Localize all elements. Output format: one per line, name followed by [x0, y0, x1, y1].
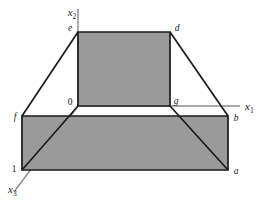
solid-diagram: x2 x1 x3 e d 0 g f b 1 a — [0, 0, 270, 201]
vertex-label-g: g — [174, 96, 179, 106]
vertex-label-b: b — [234, 113, 239, 123]
vertex-label-f: f — [14, 112, 18, 122]
x1-axis-label: x1 — [244, 100, 254, 115]
vertex-label-e: e — [68, 23, 72, 33]
vertex-label-one: 1 — [12, 164, 17, 174]
vertex-label-d: d — [175, 23, 180, 33]
figure-canvas: x2 x1 x3 e d 0 g f b 1 a — [0, 0, 270, 201]
upper-block-front-face — [78, 32, 170, 106]
lower-slab-front-face — [22, 116, 228, 170]
vertex-label-a: a — [234, 166, 239, 176]
vertex-label-origin: 0 — [68, 97, 73, 107]
x2-axis-label: x2 — [67, 6, 77, 21]
edge-d-to-b — [170, 32, 228, 116]
x3-axis-label: x3 — [7, 183, 17, 198]
